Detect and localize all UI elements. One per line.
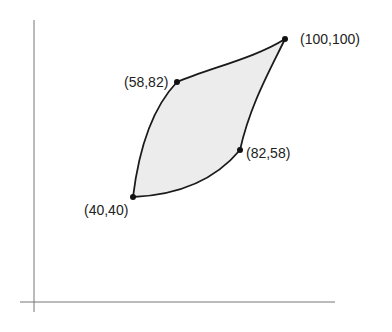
diagram-canvas: (40,40) (58,82) (100,100) (82,58)	[0, 0, 392, 332]
label-40-40: (40,40)	[84, 202, 128, 218]
label-100-100: (100,100)	[300, 31, 360, 47]
point-82-58	[237, 147, 243, 153]
shaded-region	[133, 39, 285, 197]
point-100-100	[282, 36, 288, 42]
point-58-82	[174, 79, 180, 85]
label-58-82: (58,82)	[124, 74, 168, 90]
point-40-40	[130, 194, 136, 200]
label-82-58: (82,58)	[246, 145, 290, 161]
